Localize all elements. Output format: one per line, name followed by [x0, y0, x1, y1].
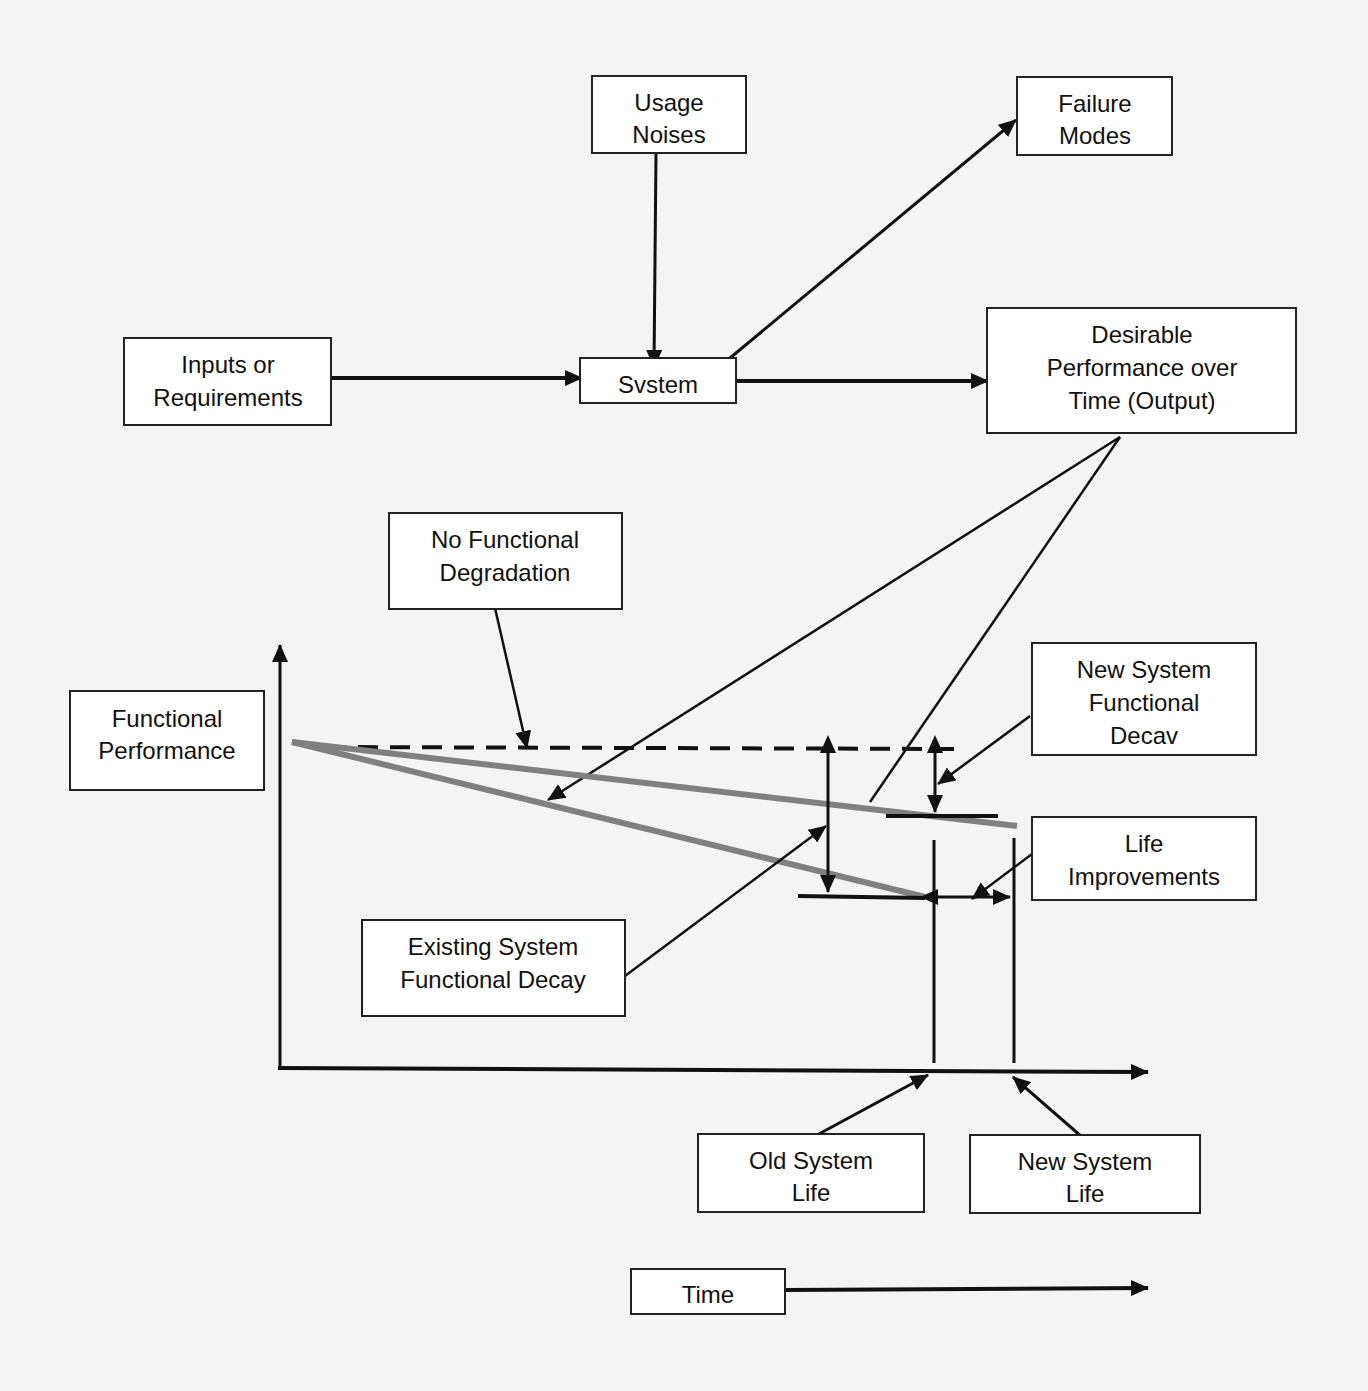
failure-modes-box: Failure Modes [1017, 77, 1172, 155]
usage-to-system-arrow [654, 153, 656, 367]
diagram-canvas: Usage Noises Failure Modes Inputs or Req… [0, 0, 1368, 1391]
no-degradation-box: No Functional Degradation [389, 513, 622, 609]
existing-system-decay-box: Existing System Functional Decay [362, 920, 625, 1016]
time-arrow [785, 1288, 1148, 1290]
old-decay-level-bar [798, 896, 925, 898]
new-system-decay-box: New System Functional Decav [1032, 643, 1256, 755]
new-system-life-box: New System Life [970, 1135, 1200, 1213]
old-life-label-2: Life [792, 1179, 831, 1206]
new-life-label-1: New System [1018, 1148, 1153, 1175]
system-to-failure-arrow [730, 120, 1016, 358]
new-system-decay-curve [292, 742, 1017, 826]
x-axis [278, 1068, 1148, 1072]
new-decay-label-1: New System [1077, 656, 1212, 683]
life-improvements-box: Life Improvements [1032, 817, 1256, 900]
new-decay-label-3: Decav [1110, 722, 1178, 749]
inputs-requirements-box: Inputs or Requirements [124, 338, 331, 425]
desirable-output-box: Desirable Performance over Time (Output) [987, 308, 1296, 433]
new-decay-label-2: Functional [1089, 689, 1200, 716]
new-life-callout-arrow [1013, 1077, 1082, 1137]
usage-noises-box: Usage Noises [592, 76, 746, 153]
system-box: Svstem [580, 358, 736, 403]
old-life-callout-arrow [817, 1075, 928, 1135]
failure-modes-label-1: Failure [1058, 90, 1131, 117]
desirable-output-label-1: Desirable [1091, 321, 1192, 348]
time-label: Time [682, 1281, 734, 1308]
usage-noises-label-1: Usage [634, 89, 703, 116]
functional-performance-label-1: Functional [112, 705, 223, 732]
functional-performance-box: Functional Performance [70, 691, 264, 790]
existing-decay-label-2: Functional Decay [400, 966, 585, 993]
desirable-output-label-2: Performance over [1047, 354, 1238, 381]
life-improvements-label-2: Improvements [1068, 863, 1220, 890]
time-box: Time [631, 1269, 785, 1314]
existing-system-decay-curve [292, 742, 925, 897]
new-life-label-2: Life [1066, 1180, 1105, 1207]
no-degradation-arrow [495, 608, 527, 748]
ideal-performance-dashed-line [326, 747, 960, 749]
old-life-label-1: Old System [749, 1147, 873, 1174]
life-improvements-label-1: Life [1125, 830, 1164, 857]
functional-performance-label-2: Performance [98, 737, 235, 764]
life-improvements-callout-arrow [972, 851, 1036, 899]
inputs-label-2: Requirements [153, 384, 302, 411]
old-system-life-box: Old System Life [698, 1134, 924, 1212]
desirable-output-label-3: Time (Output) [1068, 387, 1215, 414]
usage-noises-label-2: Noises [632, 121, 705, 148]
inputs-label-1: Inputs or [181, 351, 274, 378]
system-label: Svstem [618, 371, 698, 398]
no-degradation-label-2: Degradation [440, 559, 571, 586]
no-degradation-label-1: No Functional [431, 526, 579, 553]
failure-modes-label-2: Modes [1059, 122, 1131, 149]
existing-decay-label-1: Existing System [408, 933, 579, 960]
